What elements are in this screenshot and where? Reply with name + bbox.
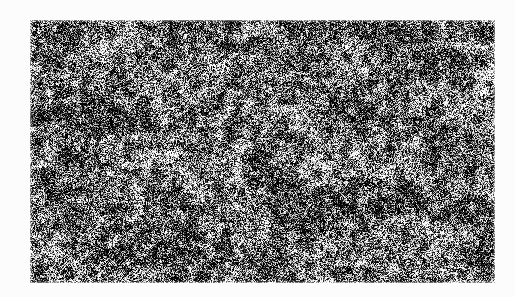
scanned-plate-background	[0, 0, 515, 297]
texture-canvas	[30, 20, 495, 283]
page-root	[0, 0, 515, 297]
grayscale-granular-texture-image	[30, 20, 495, 283]
